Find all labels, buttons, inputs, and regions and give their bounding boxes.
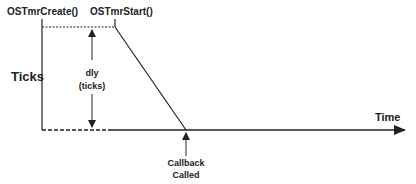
- label-ticks-axis: Ticks: [11, 69, 44, 84]
- label-called: Called: [172, 170, 199, 180]
- label-dly: dly: [85, 68, 98, 78]
- label-callback: Callback: [167, 158, 205, 168]
- label-ostmrcreate: OSTmrCreate(): [7, 6, 78, 17]
- timer-diagram: OSTmrCreate() OSTmrStart() Ticks Time dl…: [0, 0, 416, 184]
- countdown-slope-line: [115, 27, 186, 130]
- label-dly-ticks: (ticks): [79, 81, 106, 91]
- label-time-axis: Time: [375, 111, 400, 123]
- label-ostmrstart: OSTmrStart(): [90, 6, 153, 17]
